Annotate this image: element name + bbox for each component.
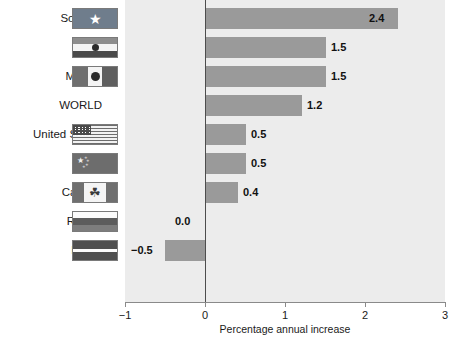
x-tick-label-2: 1: [265, 309, 305, 321]
india-flag: [72, 37, 118, 58]
x-tick-3: [365, 302, 366, 307]
plot-area: 2.41.51.51.20.50.50.40.0−0.5: [125, 0, 445, 302]
x-tick-label-1: 0: [185, 309, 225, 321]
population-growth-bar-chart: 2.41.51.51.20.50.50.40.0−0.5 −10123 Perc…: [0, 0, 450, 339]
mexico-flag: [72, 66, 118, 87]
bar-value-russia: 0.0: [175, 211, 190, 232]
bar-india: [206, 37, 326, 58]
bar-value-latvia: −0.5: [131, 240, 153, 261]
x-axis-title: Percentage annual increase: [125, 323, 445, 335]
bar-value-canada: 0.4: [243, 182, 258, 203]
category-label-world: WORLD: [0, 99, 102, 112]
somalia-flag: ★: [72, 8, 118, 29]
bar-value-world: 1.2: [307, 95, 322, 116]
x-tick-0: [125, 302, 126, 307]
bar-value-united-states: 0.5: [251, 124, 266, 145]
bar-united-states: [206, 124, 246, 145]
russia-flag: [72, 211, 118, 232]
x-tick-4: [445, 302, 446, 307]
bar-value-india: 1.5: [331, 37, 346, 58]
bar-latvia: [165, 240, 205, 261]
bar-value-somalia: 2.4: [369, 8, 384, 29]
bar-world: [206, 95, 302, 116]
x-tick-label-4: 3: [425, 309, 450, 321]
bar-canada: [206, 182, 238, 203]
china-flag: ★★★★★: [72, 153, 118, 174]
bar-china: [206, 153, 246, 174]
bar-mexico: [206, 66, 326, 87]
x-tick-label-0: −1: [105, 309, 145, 321]
canada-flag: ☘: [72, 182, 118, 203]
x-tick-2: [285, 302, 286, 307]
bar-value-china: 0.5: [251, 153, 266, 174]
united-states-flag: [72, 124, 118, 145]
bar-value-mexico: 1.5: [331, 66, 346, 87]
x-tick-label-3: 2: [345, 309, 385, 321]
latvia-flag: [72, 240, 118, 261]
x-tick-1: [205, 302, 206, 307]
